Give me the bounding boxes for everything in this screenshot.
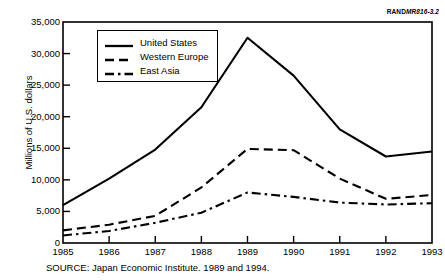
- chart-svg: [0, 0, 445, 280]
- source-caption: SOURCE: Japan Economic Institute. 1989 a…: [46, 262, 269, 273]
- x-axis-tick-label: 1993: [412, 246, 445, 257]
- legend-entry: Western Europe: [104, 49, 208, 63]
- y-axis-tick-label: 35,000: [14, 17, 60, 27]
- x-axis-tick-label: 1985: [43, 246, 83, 257]
- legend-swatch-solid: [104, 37, 134, 47]
- legend-entry: East Asia: [104, 63, 208, 77]
- y-axis-tick-label: 5,000: [14, 206, 60, 216]
- chart-legend: United StatesWestern EuropeEast Asia: [97, 30, 218, 82]
- y-axis-tick-label: 30,000: [14, 49, 60, 59]
- x-axis-tick-label: 1990: [274, 246, 314, 257]
- figure-panel: RANDMR816-3.2 Millions of U.S. dollars 0…: [0, 0, 445, 280]
- series-line-western-europe: [63, 149, 432, 230]
- y-axis-tick-label: 15,000: [14, 143, 60, 153]
- x-axis-tick-label: 1991: [320, 246, 360, 257]
- series-line-east-asia: [63, 192, 432, 235]
- legend-swatch-dash-dot: [104, 65, 134, 75]
- legend-label: Western Europe: [140, 51, 208, 62]
- x-axis-tick-label: 1992: [366, 246, 406, 257]
- legend-entry: United States: [104, 35, 208, 49]
- plot-area: Millions of U.S. dollars 05,00010,00015,…: [0, 0, 445, 280]
- x-axis-tick-label: 1986: [89, 246, 129, 257]
- x-axis-tick-label: 1989: [228, 246, 268, 257]
- x-axis-tick-label: 1988: [181, 246, 221, 257]
- x-axis-tick-labels: 198519861987198819891990199119921993: [0, 246, 445, 260]
- x-axis-tick-label: 1987: [135, 246, 175, 257]
- legend-label: United States: [140, 37, 197, 48]
- legend-swatch-dashed: [104, 51, 134, 61]
- y-axis-tick-labels: 05,00010,00015,00020,00025,00030,00035,0…: [14, 0, 60, 280]
- y-axis-tick-label: 20,000: [14, 112, 60, 122]
- y-axis-tick-label: 10,000: [14, 175, 60, 185]
- legend-label: East Asia: [140, 65, 180, 76]
- y-axis-tick-label: 25,000: [14, 80, 60, 90]
